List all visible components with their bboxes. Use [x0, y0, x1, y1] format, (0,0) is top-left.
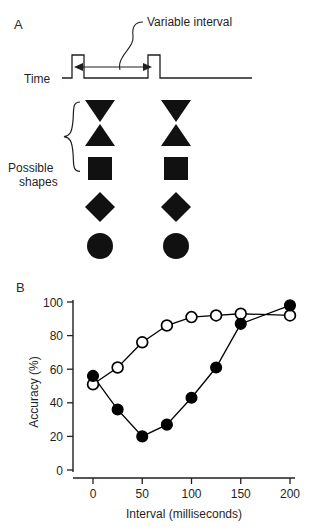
x-axis-title: Interval (milliseconds) [126, 507, 242, 521]
data-point-open-circle [137, 337, 148, 348]
y-tick-label: 0 [56, 464, 63, 478]
data-point-filled-circle [88, 371, 99, 382]
y-tick-label: 100 [43, 296, 63, 310]
data-point-filled-circle [112, 404, 123, 415]
data-point-open-circle [112, 362, 123, 373]
x-tick-label: 0 [90, 487, 97, 501]
data-point-open-circle [186, 312, 197, 323]
y-axis-title: Accuracy (%) [27, 356, 41, 427]
x-tick-label: 100 [181, 487, 201, 501]
y-tick-label: 80 [50, 329, 64, 343]
x-tick-label: 50 [136, 487, 150, 501]
y-axis-ticks: 020406080100 [43, 296, 73, 478]
data-point-filled-circle [285, 300, 296, 311]
figure-container: A B Variable interval Time Possible shap… [0, 0, 320, 532]
x-axis-ticks: 050100150200 [90, 478, 301, 501]
y-tick-label: 20 [50, 430, 64, 444]
y-tick-label: 40 [50, 396, 64, 410]
data-point-open-circle [161, 320, 172, 331]
data-point-open-circle [285, 310, 296, 321]
data-point-filled-circle [161, 419, 172, 430]
panel-b-chart: 020406080100 050100150200 Interval (mill… [0, 0, 320, 532]
data-point-open-circle [235, 308, 246, 319]
chart-series-layer [88, 300, 296, 442]
data-point-open-circle [211, 310, 222, 321]
data-point-filled-circle [186, 392, 197, 403]
data-point-filled-circle [137, 431, 148, 442]
data-point-filled-circle [211, 362, 222, 373]
x-tick-label: 150 [231, 487, 251, 501]
data-point-filled-circle [235, 318, 246, 329]
y-tick-label: 60 [50, 363, 64, 377]
series-line-open-circles [93, 314, 290, 385]
x-tick-label: 200 [280, 487, 300, 501]
